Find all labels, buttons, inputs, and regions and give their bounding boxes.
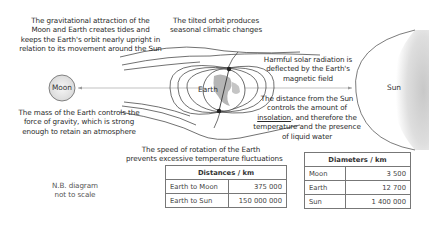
table-cell-label: Earth to Sun [166, 194, 229, 208]
table-row: Earth to Sun 150 000 000 [166, 194, 287, 208]
annotation-line: The speed of rotation of the Earth [126, 145, 276, 154]
table-header-row: Distances / km [166, 166, 287, 180]
annotation-line: prevents excessive temperature fluctuati… [126, 154, 276, 163]
scale-note: N.B. diagram not to scale [40, 181, 110, 200]
sun-label: Sun [382, 83, 406, 92]
table-cell-label: Earth to Moon [166, 180, 229, 194]
annotation-mass: The mass of the Earth controls the force… [14, 108, 144, 136]
annotation-line: of liquid water [252, 132, 362, 141]
annotation-text: , and therefore the [291, 113, 357, 122]
table-cell-value: 1 400 000 [346, 195, 411, 209]
annotation-line: deflected by the Earth's [258, 64, 358, 73]
earth-suitability-diagram: Moon Earth Sun The gravitational attract… [0, 0, 429, 230]
annotation-line: controls the amount of [252, 103, 362, 112]
table-row: Moon 3 500 [305, 167, 411, 181]
annotation-line: enough to retain an atmosphere [14, 127, 144, 136]
annotation-line: The mass of the Earth controls the [14, 108, 144, 117]
annotation-line: magnetic field [258, 74, 358, 83]
table-row: Earth to Moon 375 000 [166, 180, 287, 194]
diameters-table: Diameters / km Moon 3 500 Earth 12 700 S… [304, 152, 411, 209]
annotation-line: N.B. diagram [40, 181, 110, 190]
annotation-line: force of gravity, which is strong [14, 117, 144, 126]
table-cell-label: Moon [305, 167, 346, 181]
table-row: Earth 12 700 [305, 181, 411, 195]
annotation-line: temperature and the presence [252, 122, 362, 131]
distances-table: Distances / km Earth to Moon 375 000 Ear… [165, 165, 287, 208]
table-cell-value: 12 700 [346, 181, 411, 195]
distances-table-header: Distances / km [166, 166, 287, 180]
table-cell-label: Earth [305, 181, 346, 195]
annotation-line: The tilted orbit produces [166, 16, 266, 25]
annotation-line: The gravitational attraction of the [18, 16, 163, 25]
annotation-gravitational: The gravitational attraction of the Moon… [18, 16, 163, 54]
table-header-row: Diameters / km [305, 153, 411, 167]
annotation-line: seasonal climatic changes [166, 25, 266, 34]
diameters-table-header: Diameters / km [305, 153, 411, 167]
annotation-line: The distance from the Sun [252, 94, 362, 103]
table-row: Sun 1 400 000 [305, 195, 411, 209]
annotation-distance-sun: The distance from the Sun controls the a… [252, 94, 362, 141]
annotation-line: not to scale [40, 190, 110, 199]
annotation-line: relation to its movement around the Sun [18, 44, 163, 53]
table-cell-label: Sun [305, 195, 346, 209]
annotation-line: Moon and Earth creates tides and [18, 25, 163, 34]
table-cell-value: 150 000 000 [229, 194, 287, 208]
table-cell-value: 3 500 [346, 167, 411, 181]
insolation-glossary-link[interactable]: insolation [257, 113, 291, 122]
moon-label: Moon [50, 83, 74, 92]
annotation-line: keeps the Earth's orbit nearly upright i… [18, 35, 163, 44]
annotation-line: insolation, and therefore the [252, 113, 362, 122]
annotation-tilted-orbit: The tilted orbit produces seasonal clima… [166, 16, 266, 35]
earth-label: Earth [194, 85, 222, 94]
annotation-rotation: The speed of rotation of the Earth preve… [126, 145, 276, 164]
annotation-solar-radiation: Harmful solar radiation is deflected by … [258, 55, 358, 83]
table-cell-value: 375 000 [229, 180, 287, 194]
annotation-line: Harmful solar radiation is [258, 55, 358, 64]
